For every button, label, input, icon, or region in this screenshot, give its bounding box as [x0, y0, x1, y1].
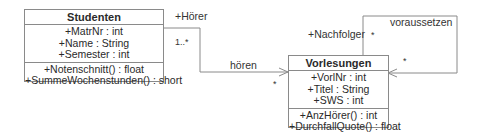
- multiplicity-vorlesungen-label: *: [273, 78, 277, 90]
- attribute-matrnr: +MatrNr : int: [25, 26, 163, 38]
- class-studenten[interactable]: Studenten +MatrNr : int +Name : String +…: [24, 9, 164, 82]
- association-hoeren-label: hören: [230, 59, 257, 71]
- arrowhead-hoeren-icon: [279, 68, 288, 76]
- association-voraussetzen-label: voraussetzen: [390, 16, 452, 28]
- association-hoeren-line: [164, 28, 288, 72]
- class-studenten-name: Studenten: [25, 10, 163, 25]
- attribute-semester: +Semester : int: [25, 49, 163, 61]
- role-hoerer-label: +Hörer: [175, 10, 207, 22]
- attribute-sws: +SWS : int: [289, 95, 388, 107]
- class-studenten-methods: +Notenschnitt() : float +SummeWochenstun…: [25, 62, 163, 88]
- class-vorlesungen-attributes: +VorlNr : int +Titel : String +SWS : int: [289, 71, 388, 108]
- uml-diagram-canvas: Studenten +MatrNr : int +Name : String +…: [0, 0, 481, 136]
- class-vorlesungen[interactable]: Vorlesungen +VorlNr : int +Titel : Strin…: [288, 55, 389, 128]
- method-durchfallquote: +DurchfallQuote() : float: [289, 121, 388, 133]
- multiplicity-nachfolger-label: *: [371, 29, 375, 41]
- class-vorlesungen-name: Vorlesungen: [289, 56, 388, 71]
- method-summewochenstunden: +SummeWochenstunden() : short: [25, 75, 163, 87]
- class-studenten-attributes: +MatrNr : int +Name : String +Semester :…: [25, 25, 163, 62]
- class-vorlesungen-methods: +AnzHörer() : int +DurchfallQuote() : fl…: [289, 108, 388, 134]
- multiplicity-voraussetzen-label: *: [403, 55, 407, 67]
- arrowhead-voraussetzen-icon: [388, 69, 397, 77]
- attribute-vorlnr: +VorlNr : int: [289, 72, 388, 84]
- multiplicity-studenten-label: 1..*: [175, 36, 189, 48]
- role-nachfolger-label: +Nachfolger: [308, 28, 365, 40]
